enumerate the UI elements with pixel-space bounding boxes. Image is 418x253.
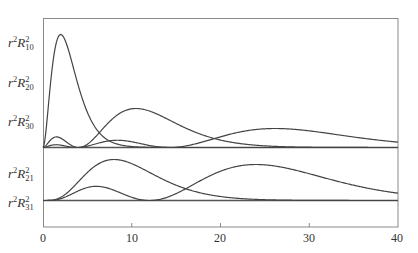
radial-distribution-chart — [0, 0, 418, 253]
label-r2R10: r2R210 — [8, 35, 34, 52]
x-tick-label-20: 20 — [214, 231, 226, 246]
label-r2R21: r2R221 — [8, 166, 34, 183]
x-tick-label-30: 30 — [303, 231, 315, 246]
x-tick-label-10: 10 — [126, 231, 138, 246]
curve-r2R21 — [43, 160, 398, 201]
label-r2R31: r2R231 — [8, 195, 34, 212]
plot-frame — [44, 19, 399, 228]
curve-r2R30 — [43, 129, 398, 148]
label-r2R30: r2R230 — [8, 114, 34, 131]
curve-r2R10 — [43, 35, 398, 148]
curve-r2R31 — [43, 165, 398, 201]
x-tick-label-40: 40 — [391, 231, 403, 246]
x-axis-ticks — [132, 223, 310, 227]
x-tick-label-0: 0 — [40, 231, 46, 246]
label-r2R20: r2R220 — [8, 75, 34, 92]
